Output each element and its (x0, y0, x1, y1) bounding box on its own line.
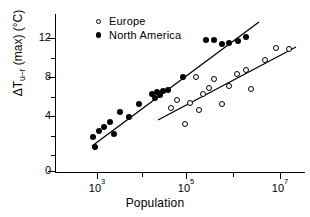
data-point-north-america-0 (90, 134, 96, 140)
data-point-north-america-17 (211, 37, 217, 43)
trend-line-north-america (92, 22, 259, 146)
data-point-north-america-21 (243, 34, 249, 40)
data-point-north-america-19 (226, 40, 232, 46)
data-point-north-america-6 (117, 109, 123, 115)
data-point-north-america-14 (165, 87, 171, 93)
data-point-north-america-18 (219, 41, 225, 47)
plot-data-layer (0, 0, 310, 217)
data-point-north-america-3 (101, 124, 107, 130)
fit-lines (0, 0, 310, 217)
data-point-north-america-16 (203, 37, 209, 43)
data-point-north-america-5 (111, 131, 117, 137)
data-point-north-america-15 (180, 74, 186, 80)
urban-heat-island-scatter-figure: 12 8 4 0 103 105 107 Population ΔTu–r (m… (0, 0, 310, 217)
data-point-north-america-8 (136, 101, 142, 107)
data-point-north-america-1 (92, 144, 98, 150)
data-point-north-america-4 (107, 119, 113, 125)
data-point-north-america-7 (126, 114, 132, 120)
data-point-north-america-20 (235, 38, 241, 44)
